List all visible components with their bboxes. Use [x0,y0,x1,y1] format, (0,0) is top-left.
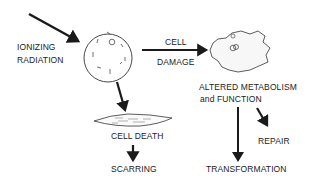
diagram-canvas: IONIZING RADIATION CELL DAMAGE ALTERED M… [0,0,322,181]
normal-cell-icon [84,32,132,82]
cell-label: CELL [165,37,187,47]
function-label: and FUNCTION [200,94,262,104]
ionizing-label: IONIZING [17,42,56,52]
repair-label: REPAIR [258,136,290,146]
altered-metabolism-label: ALTERED METABOLISM [199,82,297,92]
cell-death-arrow [117,82,125,110]
cell-death-label: CELL DEATH [111,131,164,141]
damaged-cell-icon [210,31,270,72]
damage-label: DAMAGE [157,57,194,67]
dead-cell-icon [94,114,172,126]
scarring-label: SCARRING [111,164,157,174]
transformation-label: TRANSFORMATION [206,164,287,174]
radiation-label: RADIATION [17,55,64,65]
repair-arrow [257,108,267,125]
radiation-arrow [29,14,78,41]
